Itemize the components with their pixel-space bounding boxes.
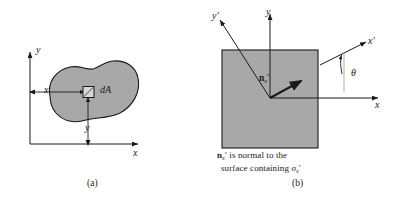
panel-b-caption: (b) (292, 178, 303, 188)
y-dimension-arrow-down (86, 140, 91, 146)
differential-area-label: dA (100, 84, 111, 95)
panel-b-y-axis-label: y (266, 6, 270, 17)
panel-b-x-axis-label: x (375, 99, 379, 110)
x-prime-axis (320, 42, 366, 65)
panel-a-x-axis-label: x (133, 147, 137, 158)
sigma-prime: ′ (299, 163, 301, 173)
note-line-2-text: surface containing (221, 163, 291, 173)
panel-a-y-axis-label: y (36, 44, 40, 55)
differential-area-element (83, 87, 94, 98)
panel-a-y-dimension-label: y (85, 122, 89, 133)
note-line-2: surface containing σx′ (221, 163, 301, 174)
note-line-1: nx′ is normal to the (217, 150, 287, 161)
panel-b-y-prime-axis-label: y' (212, 10, 219, 21)
panel-a-x-dimension-label: x (44, 84, 48, 95)
panel-a-caption: (a) (87, 178, 98, 188)
angle-arc (341, 55, 342, 74)
figure-container: y x x y dA (a) (0, 0, 396, 197)
note-line-1-text: is normal to the (227, 150, 287, 160)
panel-a-graphic (0, 0, 198, 197)
normal-vector-label: nx′ (259, 73, 269, 84)
angle-theta-label: θ (351, 67, 356, 78)
normal-vector-prime: ′ (267, 73, 269, 83)
panel-b-x-prime-axis-label: x' (368, 35, 375, 46)
